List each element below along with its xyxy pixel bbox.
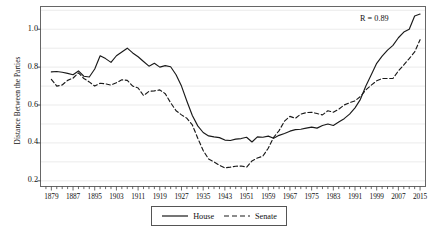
legend-item-senate: Senate [223, 212, 277, 221]
x-tick-label: 1943 [218, 192, 232, 201]
x-tick-label: 1927 [174, 192, 188, 201]
legend-swatch-solid-line [161, 212, 189, 220]
x-tick-label: 1911 [131, 192, 145, 201]
correlation-annotation: R = 0.89 [360, 14, 389, 23]
legend-label: Senate [255, 212, 277, 221]
x-tick-label: 1903 [109, 192, 123, 201]
x-tick-label: 1879 [44, 192, 58, 201]
x-tick-label: 1919 [153, 192, 167, 201]
x-tick-label: 1951 [239, 192, 253, 201]
x-tick-label: 1991 [348, 192, 362, 201]
y-tick-label: 0.2 [16, 176, 38, 184]
x-tick-label: 1983 [326, 192, 340, 201]
legend-swatch-dashed-line [223, 212, 251, 220]
x-tick-label: 2015 [413, 192, 427, 201]
chart-legend: HouseSenate [151, 206, 287, 226]
chart-canvas [0, 0, 437, 239]
x-tick-label: 1959 [261, 192, 275, 201]
y-tick-label: 1.0 [16, 25, 38, 33]
x-tick-label: 1935 [196, 192, 210, 201]
x-tick-label: 1967 [283, 192, 297, 201]
series-line-house [51, 14, 420, 142]
x-tick-label: 1975 [305, 192, 319, 201]
legend-item-house: House [161, 212, 214, 221]
x-tick-label: 1887 [66, 192, 80, 201]
legend-label: House [193, 212, 214, 221]
y-tick-label: 0.8 [16, 63, 38, 71]
y-tick-label: 0.4 [16, 138, 38, 146]
y-tick-label: 0.6 [16, 101, 38, 109]
y-axis-tick-labels: 0.20.40.60.81.0 [0, 0, 38, 239]
x-tick-label: 2007 [391, 192, 405, 201]
polarization-chart: Distance Between the Parties 0.20.40.60.… [0, 0, 437, 239]
x-tick-label: 1895 [88, 192, 102, 201]
x-tick-label: 1999 [370, 192, 384, 201]
